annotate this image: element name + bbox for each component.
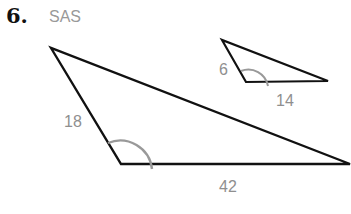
- small-triangle: 6 14: [219, 40, 328, 109]
- large-triangle: 18 42: [51, 48, 350, 195]
- small-side-left-label: 6: [219, 61, 228, 78]
- large-side-bottom-label: 42: [219, 178, 237, 195]
- angle-arc-small: [241, 70, 268, 86]
- small-side-bottom-label: 14: [276, 92, 294, 109]
- large-side-left-label: 18: [64, 113, 82, 130]
- triangles-diagram: 18 42 6 14: [0, 0, 351, 214]
